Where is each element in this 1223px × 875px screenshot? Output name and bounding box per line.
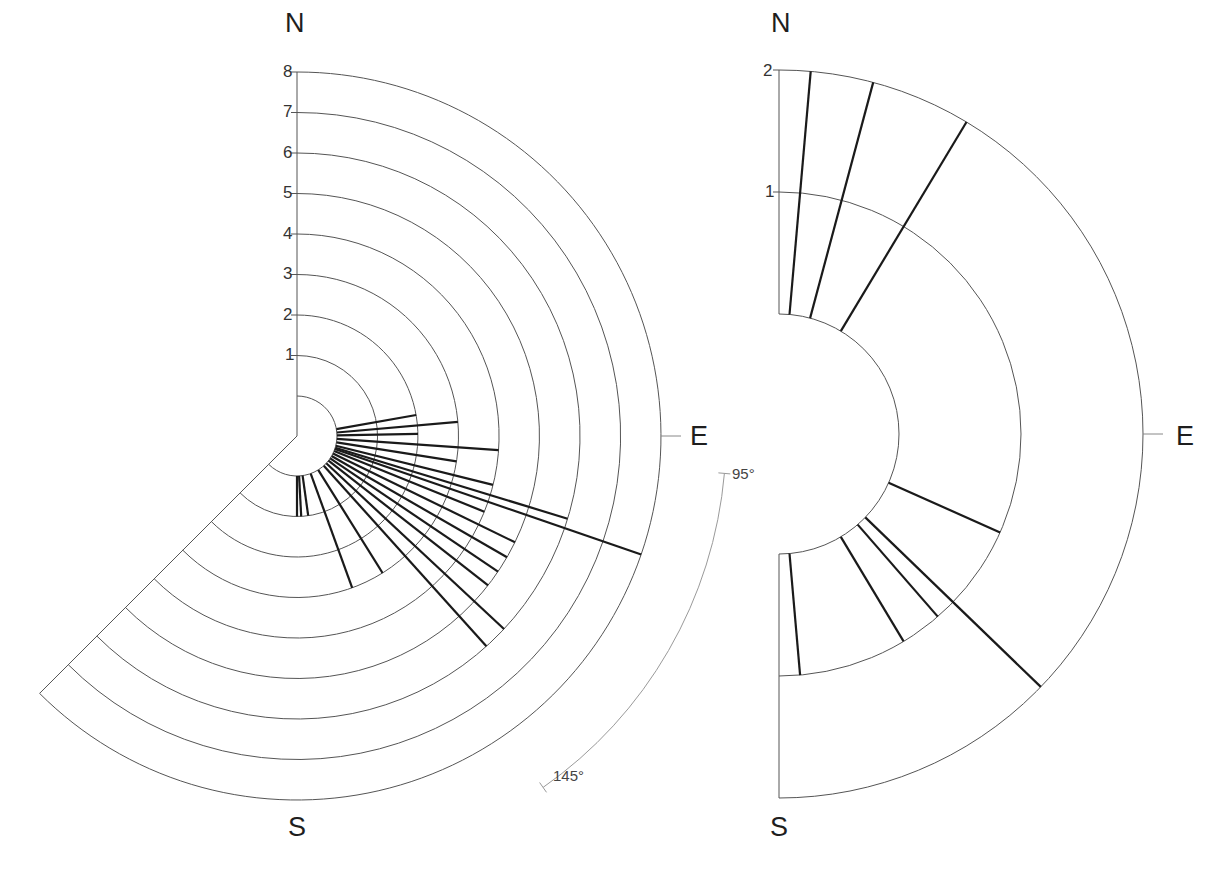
- right-ring-1: [779, 192, 1021, 676]
- left-south-label: S: [288, 814, 306, 841]
- left-tick-4: 4: [283, 225, 292, 242]
- angle-annotation-arc: [543, 473, 724, 787]
- right-ray: [810, 82, 873, 318]
- left-tick-5: 5: [283, 184, 292, 201]
- left-tick-2: 2: [283, 306, 292, 323]
- left-ray: [337, 434, 418, 435]
- left-east-label: E: [690, 423, 708, 450]
- right-tick-2: 2: [763, 62, 772, 79]
- right-ray: [790, 71, 811, 314]
- right-ring-0: [779, 314, 899, 554]
- right-ray: [841, 537, 904, 642]
- angle-end-label: 145°: [553, 768, 584, 783]
- left-tick-6: 6: [283, 144, 292, 161]
- angle-start-label: 95°: [732, 466, 755, 481]
- left-tick-8: 8: [283, 63, 292, 80]
- right-tick-1: 1: [765, 183, 774, 200]
- right-ray: [858, 525, 938, 617]
- left-ray: [337, 422, 458, 433]
- left-tick-1: 1: [285, 346, 294, 363]
- left-sw-axis: [40, 464, 269, 693]
- right-south-label: S: [770, 814, 788, 841]
- left-ray: [303, 476, 309, 516]
- left-center-edge: [269, 396, 297, 464]
- left-tick-3: 3: [283, 265, 292, 282]
- right-ray: [865, 517, 1041, 687]
- left-tick-7: 7: [283, 103, 292, 120]
- right-ring-2: [779, 70, 1143, 798]
- angle-annotation-cap: [718, 473, 730, 474]
- right-ray: [841, 122, 967, 331]
- right-ray: [790, 554, 801, 676]
- right-east-label: E: [1176, 423, 1194, 450]
- left-north-label: N: [285, 10, 305, 37]
- left-ray: [326, 463, 504, 629]
- left-ray: [335, 448, 567, 519]
- right-ray: [889, 483, 1001, 533]
- angle-annotation-cap: [540, 783, 547, 793]
- rose-diagrams: [0, 0, 1223, 875]
- right-north-label: N: [771, 10, 791, 37]
- left-ray: [299, 476, 301, 517]
